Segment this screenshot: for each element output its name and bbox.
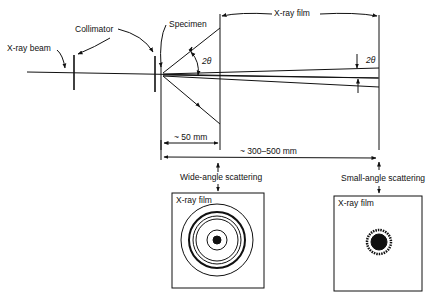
specimen-label: Specimen xyxy=(169,20,207,29)
distance-small-label: ~ 300–500 mm xyxy=(240,147,297,156)
xray-beam-label: X-ray beam xyxy=(7,44,51,53)
wide-ray-down xyxy=(163,76,220,124)
two-theta-small-label: 2θ xyxy=(366,56,375,65)
xray-diffraction-diagram xyxy=(0,0,432,298)
wide-angle-label: Wide-angle scattering xyxy=(180,173,262,182)
central-spot-wide xyxy=(213,236,221,244)
two-theta-wide-label: 2θ xyxy=(202,57,211,66)
film-wide-label: X-ray film xyxy=(176,196,212,205)
film-small-label: X-ray film xyxy=(338,199,374,208)
wide-ray-up xyxy=(163,28,220,73)
distance-wide-label: ~ 50 mm xyxy=(174,133,207,142)
xray-film-top-label: X-ray film xyxy=(274,9,310,18)
small-ray-up xyxy=(163,68,379,74)
small-angle-label: Small-angle scattering xyxy=(341,174,425,183)
collimator-label: Collimator xyxy=(75,25,113,34)
central-spot-small xyxy=(371,234,387,250)
